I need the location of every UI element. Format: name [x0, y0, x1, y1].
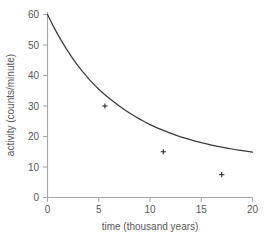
x-tick-label-20: 20 [247, 204, 259, 215]
chart-canvas: 60 50 40 30 20 10 0 activity (counts/min… [0, 0, 268, 240]
y-tick-label-60: 60 [28, 9, 40, 20]
data-point-marker [219, 172, 224, 177]
x-tick-label-5: 5 [96, 204, 102, 215]
y-axis-title: activity (counts/minute) [5, 54, 16, 156]
x-tick-label-0: 0 [45, 204, 51, 215]
y-tick-label-40: 40 [28, 70, 40, 81]
x-tick-label-10: 10 [144, 204, 156, 215]
y-tick-label-10: 10 [28, 162, 40, 173]
y-tick-label-0: 0 [33, 192, 39, 203]
y-tick-label-30: 30 [28, 101, 40, 112]
y-tick-label-50: 50 [28, 40, 40, 51]
x-axis-group: 0 5 10 15 20 time (thousand years) [45, 198, 259, 233]
x-axis-title: time (thousand years) [102, 221, 199, 232]
decay-chart: 60 50 40 30 20 10 0 activity (counts/min… [0, 0, 268, 240]
data-point-marker [102, 103, 107, 108]
y-axis-group: 60 50 40 30 20 10 0 activity (counts/min… [5, 9, 48, 203]
data-point-marker [161, 149, 166, 154]
y-tick-label-20: 20 [28, 131, 40, 142]
x-tick-label-15: 15 [196, 204, 208, 215]
decay-curve [48, 15, 253, 153]
data-point-markers [102, 103, 224, 177]
